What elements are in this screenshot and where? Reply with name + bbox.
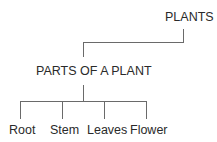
connector-root-down [183,29,184,42]
connector-leaves-horizontal [20,101,147,102]
node-root: Root [9,123,35,137]
node-leaves: Leaves [87,123,127,137]
node-plants: PLANTS [165,10,214,24]
connector-root-leaf [20,101,21,119]
node-stem: Stem [50,123,79,137]
connector-stem-leaf [62,101,63,119]
connector-flower-leaf [146,101,147,119]
connector-middle-up [83,42,84,57]
connector-root-horizontal [83,42,184,43]
connector-middle-down [83,85,84,101]
node-parts-of-a-plant: PARTS OF A PLANT [36,64,152,78]
node-flower: Flower [130,123,168,137]
connector-leaves-leaf [104,101,105,119]
